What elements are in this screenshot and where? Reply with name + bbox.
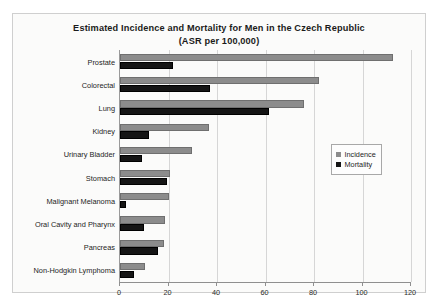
bar-incidence: [120, 147, 192, 154]
legend-item-incidence: Incidence: [336, 150, 376, 159]
x-tick-label: 60: [260, 288, 268, 297]
bar-mortality: [120, 131, 149, 138]
category-label: Urinary Bladder: [64, 150, 115, 159]
chart-title-line-1: Estimated Incidence and Mortality for Me…: [13, 22, 425, 35]
bar-incidence: [120, 193, 169, 200]
category-label: Non-Hodgkin Lymphoma: [34, 266, 115, 275]
x-tick-mark: [410, 282, 411, 286]
category-label: Colorectal: [82, 80, 115, 89]
chart-row: Pancreas: [120, 236, 411, 259]
x-tick-mark: [362, 282, 363, 286]
bar-mortality: [120, 85, 210, 92]
chart-row: Kidney: [120, 120, 411, 143]
legend-swatch-mortality: [336, 162, 341, 167]
x-tick-mark: [265, 282, 266, 286]
x-tick-label: 20: [163, 288, 171, 297]
chart-container: Estimated Incidence and Mortality for Me…: [12, 13, 426, 293]
chart-title: Estimated Incidence and Mortality for Me…: [13, 22, 425, 47]
bar-incidence: [120, 124, 209, 131]
category-label: Oral Cavity and Pharynx: [35, 219, 115, 228]
bar-mortality: [120, 108, 269, 115]
bar-mortality: [120, 224, 144, 231]
x-tick-mark: [119, 282, 120, 286]
category-label: Prostate: [87, 57, 115, 66]
legend-label-incidence: Incidence: [345, 150, 376, 159]
chart-legend: Incidence Mortality: [331, 144, 382, 175]
x-tick-label: 100: [355, 288, 367, 297]
bar-mortality: [120, 178, 167, 185]
bar-incidence: [120, 240, 164, 247]
legend-item-mortality: Mortality: [336, 160, 376, 169]
bar-incidence: [120, 170, 170, 177]
bar-incidence: [120, 263, 145, 270]
bar-incidence: [120, 54, 393, 61]
bar-mortality: [120, 201, 126, 208]
category-label: Lung: [99, 103, 115, 112]
x-tick-label: 0: [117, 288, 121, 297]
legend-swatch-incidence: [336, 152, 341, 157]
bar-mortality: [120, 271, 134, 278]
chart-row: Lung: [120, 96, 411, 119]
x-tick-label: 40: [212, 288, 220, 297]
x-tick-mark: [168, 282, 169, 286]
category-label: Stomach: [86, 173, 115, 182]
x-gridline: [411, 50, 412, 282]
bar-mortality: [120, 62, 173, 69]
chart-row: Colorectal: [120, 73, 411, 96]
x-tick-label: 80: [309, 288, 317, 297]
chart-row: Non-Hodgkin Lymphoma: [120, 259, 411, 282]
bar-incidence: [120, 216, 165, 223]
x-tick-mark: [216, 282, 217, 286]
legend-label-mortality: Mortality: [345, 160, 373, 169]
chart-row: Oral Cavity and Pharynx: [120, 212, 411, 235]
chart-row: Malignant Melanoma: [120, 189, 411, 212]
bar-mortality: [120, 155, 142, 162]
chart-title-line-2: (ASR per 100,000): [13, 35, 425, 48]
x-tick-mark: [313, 282, 314, 286]
bar-mortality: [120, 247, 158, 254]
x-tick-label: 120: [404, 288, 416, 297]
category-label: Malignant Melanoma: [46, 196, 115, 205]
category-label: Kidney: [92, 127, 115, 136]
bar-incidence: [120, 77, 319, 84]
chart-row: Prostate: [120, 50, 411, 73]
bar-incidence: [120, 100, 304, 107]
category-label: Pancreas: [84, 243, 115, 252]
